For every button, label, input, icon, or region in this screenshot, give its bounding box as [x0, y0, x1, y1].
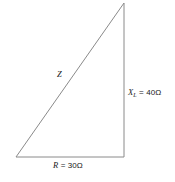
impedance-symbol: Z	[57, 69, 62, 79]
impedance-hypotenuse-line	[16, 3, 124, 157]
impedance-triangle-diagram: Z XL = 40Ω R = 30Ω	[0, 0, 175, 182]
reactance-subscript: L	[133, 92, 136, 98]
reactance-value: 40Ω	[146, 88, 161, 97]
reactance-equals-sign: =	[139, 88, 144, 97]
resistance-symbol: R	[53, 160, 58, 170]
impedance-label: Z	[57, 70, 62, 79]
resistance-value: 30Ω	[68, 161, 83, 170]
resistance-label: R = 30Ω	[53, 161, 83, 170]
resistance-equals-sign: =	[61, 161, 66, 170]
reactance-label: XL = 40Ω	[128, 88, 161, 97]
